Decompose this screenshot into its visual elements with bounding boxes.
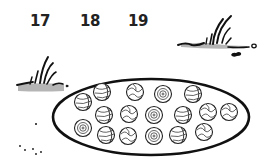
grass-icon-right xyxy=(178,16,256,57)
ball-icon xyxy=(185,86,202,103)
ball-icon xyxy=(75,120,92,137)
ball-icon xyxy=(146,107,163,124)
ball-icon xyxy=(75,94,92,111)
ball-icon xyxy=(221,104,238,121)
ball-group xyxy=(75,84,238,145)
ball-icon xyxy=(196,124,213,141)
ball-icon xyxy=(127,84,144,101)
scene-drawing xyxy=(0,0,275,162)
ball-icon xyxy=(155,86,172,103)
dots-decoration xyxy=(19,123,42,155)
ball-icon xyxy=(94,84,111,101)
counting-illustration: 17 18 19 xyxy=(0,0,275,162)
ball-icon xyxy=(120,128,137,145)
ball-icon xyxy=(121,106,138,123)
grass-icon-left xyxy=(17,57,68,92)
ball-icon xyxy=(200,104,217,121)
ball-icon xyxy=(175,107,192,124)
ball-icon xyxy=(96,107,113,124)
ball-icon xyxy=(170,127,187,144)
ball-icon xyxy=(146,128,163,145)
ball-icon xyxy=(98,127,115,144)
